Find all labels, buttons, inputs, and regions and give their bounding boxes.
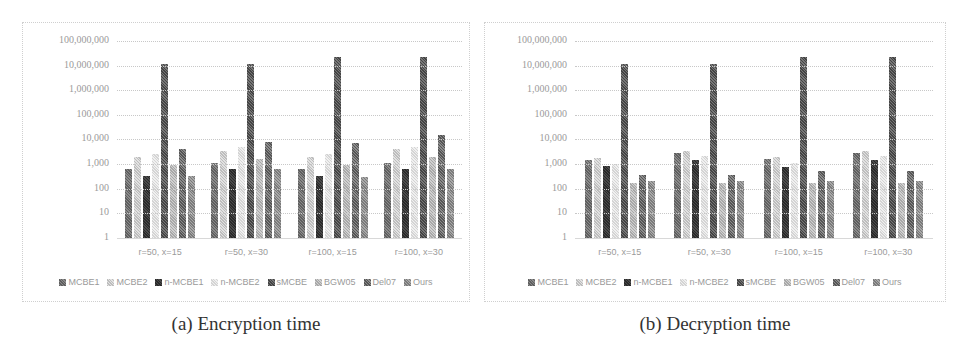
legend-label: Del07 — [373, 277, 397, 287]
bar-mcbe2 — [307, 157, 314, 238]
gridline — [117, 164, 462, 165]
legend-item: MCBE1 — [59, 277, 99, 287]
y-tick-label: 1,000,000 — [31, 83, 109, 94]
bar-mcbe1 — [674, 153, 681, 238]
gridline — [575, 90, 933, 91]
bar-ours — [827, 181, 834, 238]
legend-swatch-icon — [268, 279, 275, 286]
bar-n-mcbe2 — [325, 154, 332, 238]
bar-n-mcbe2 — [880, 156, 887, 238]
legend-item: Del07 — [364, 277, 397, 287]
bar-ours — [361, 177, 368, 238]
legend-swatch-icon — [784, 279, 791, 286]
legend-label: BGW05 — [793, 277, 825, 287]
bar-ours — [648, 181, 655, 238]
bar-n-mcbe1 — [871, 160, 878, 237]
decryption-legend: MCBE1MCBE2n-MCBE1n-MCBE2sMCBEBGW05Del07O… — [485, 277, 945, 287]
legend-item: BGW05 — [784, 277, 825, 287]
bar-n-mcbe2 — [612, 164, 619, 238]
y-tick-label: 100,000 — [31, 108, 109, 119]
bar-mcbe1 — [298, 169, 305, 237]
y-tick-label: 10,000,000 — [489, 59, 567, 70]
legend-item: n-MCBE1 — [155, 277, 203, 287]
y-tick-label: 1 — [489, 231, 567, 242]
legend-swatch-icon — [680, 279, 687, 286]
gridline — [575, 41, 933, 42]
legend-swatch-icon — [404, 279, 411, 286]
bar-smcbe — [800, 57, 807, 238]
bar-bgw05 — [719, 183, 726, 238]
legend-label: Ours — [882, 277, 902, 287]
legend-item: Ours — [404, 277, 433, 287]
bar-mcbe2 — [134, 157, 141, 238]
x-category-label: r=50, x=15 — [570, 247, 670, 257]
bar-mcbe1 — [384, 163, 391, 238]
bar-n-mcbe1 — [316, 176, 323, 238]
gridline — [117, 115, 462, 116]
gridline — [117, 41, 462, 42]
bar-mcbe2 — [594, 158, 601, 238]
legend-item: sMCBE — [268, 277, 308, 287]
y-tick-label: 10,000 — [31, 132, 109, 143]
bar-del07 — [352, 143, 359, 238]
legend-swatch-icon — [315, 279, 322, 286]
bar-mcbe1 — [211, 163, 218, 238]
gridline — [575, 115, 933, 116]
bar-bgw05 — [630, 183, 637, 238]
x-category-label: r=100, x=30 — [838, 247, 938, 257]
legend-item: n-MCBE2 — [211, 277, 259, 287]
legend-swatch-icon — [624, 279, 631, 286]
legend-item: BGW05 — [315, 277, 356, 287]
gridline — [575, 213, 933, 214]
y-tick-label: 1,000,000 — [489, 83, 567, 94]
y-tick-label: 10 — [31, 206, 109, 217]
legend-item: Ours — [873, 277, 902, 287]
bar-ours — [447, 169, 454, 237]
bar-del07 — [818, 171, 825, 237]
bar-n-mcbe2 — [411, 147, 418, 238]
bar-n-mcbe1 — [603, 166, 610, 237]
gridline — [117, 66, 462, 67]
bar-n-mcbe1 — [402, 169, 409, 238]
y-tick-label: 100 — [489, 182, 567, 193]
encryption-legend: MCBE1MCBE2n-MCBE1n-MCBE2sMCBEBGW05Del07O… — [23, 277, 469, 287]
bar-del07 — [438, 135, 445, 238]
bar-smcbe — [334, 57, 341, 238]
x-category-label: r=50, x=15 — [110, 247, 210, 257]
bar-del07 — [179, 149, 186, 238]
gridline — [575, 189, 933, 190]
gridline — [117, 90, 462, 91]
bar-mcbe2 — [393, 149, 400, 238]
legend-item: Del07 — [833, 277, 866, 287]
bar-ours — [188, 176, 195, 238]
legend-swatch-icon — [155, 279, 162, 286]
bar-mcbe1 — [125, 169, 132, 237]
x-category-label: r=100, x=30 — [369, 247, 469, 257]
decryption-caption: (b) Decryption time — [484, 313, 946, 335]
y-tick-label: 1,000 — [31, 157, 109, 168]
bar-bgw05 — [256, 159, 263, 238]
gridline — [117, 189, 462, 190]
bar-ours — [274, 169, 281, 238]
legend-label: MCBE2 — [116, 277, 147, 287]
y-tick-label: 100 — [31, 182, 109, 193]
bar-n-mcbe1 — [229, 169, 236, 238]
legend-item: n-MCBE1 — [624, 277, 672, 287]
gridline — [575, 66, 933, 67]
legend-swatch-icon — [873, 279, 880, 286]
bar-ours — [916, 181, 923, 238]
legend-label: sMCBE — [277, 277, 308, 287]
bar-n-mcbe2 — [152, 154, 159, 238]
bar-mcbe2 — [773, 157, 780, 238]
legend-item: MCBE2 — [107, 277, 147, 287]
legend-label: n-MCBE2 — [220, 277, 259, 287]
y-tick-label: 100,000,000 — [31, 34, 109, 45]
legend-label: n-MCBE2 — [689, 277, 728, 287]
legend-item: MCBE1 — [528, 277, 568, 287]
legend-item: sMCBE — [737, 277, 777, 287]
legend-swatch-icon — [364, 279, 371, 286]
gridline — [117, 139, 462, 140]
y-tick-label: 10,000 — [489, 132, 567, 143]
legend-swatch-icon — [211, 279, 218, 286]
y-tick-label: 10,000,000 — [31, 59, 109, 70]
